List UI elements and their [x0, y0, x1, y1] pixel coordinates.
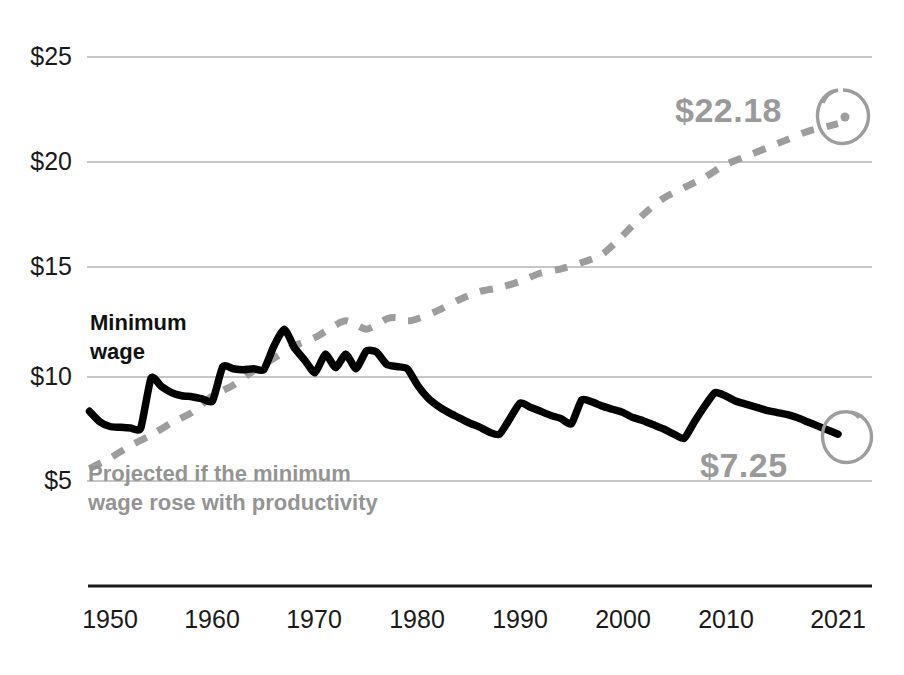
minwage-endpoint-circle-icon [822, 412, 871, 463]
x-tick-1950: 1950 [82, 605, 138, 633]
y-tick-10: $10 [30, 362, 72, 390]
x-tick-1970: 1970 [286, 605, 342, 633]
minimum-wage-label-line1: Minimum [90, 310, 187, 335]
x-tick-2010: 2010 [698, 605, 754, 633]
y-tick-5: $5 [44, 466, 72, 494]
series-label-projected: Projected if the minimum wage rose with … [87, 461, 378, 515]
callout-minimum-wage-value: $7.25 [700, 446, 788, 484]
callout-projected-value: $22.18 [675, 91, 782, 129]
x-tick-1960: 1960 [184, 605, 240, 633]
series-line-minimum-wage [89, 329, 838, 438]
projected-label-line1: Projected if the minimum [88, 461, 351, 486]
series-label-minimum-wage: Minimum wage [89, 310, 187, 364]
minimum-wage-label-line2: wage [89, 339, 145, 364]
minimum-wage-chart: $25 $20 $15 $10 $5 1950 1960 1970 1980 1… [0, 0, 904, 675]
chart-plot-area: $25 $20 $15 $10 $5 1950 1960 1970 1980 1… [0, 0, 904, 675]
projected-endpoint-dot [841, 113, 850, 122]
x-axis-ticks: 1950 1960 1970 1980 1990 2000 2010 2021 [82, 605, 866, 633]
x-tick-2021: 2021 [810, 605, 866, 633]
x-tick-1990: 1990 [492, 605, 548, 633]
y-tick-20: $20 [30, 147, 72, 175]
x-tick-2000: 2000 [595, 605, 651, 633]
y-tick-25: $25 [30, 42, 72, 70]
x-tick-1980: 1980 [389, 605, 445, 633]
y-axis-ticks: $25 $20 $15 $10 $5 [30, 42, 72, 494]
y-tick-15: $15 [30, 252, 72, 280]
projected-label-line2: wage rose with productivity [87, 490, 378, 515]
